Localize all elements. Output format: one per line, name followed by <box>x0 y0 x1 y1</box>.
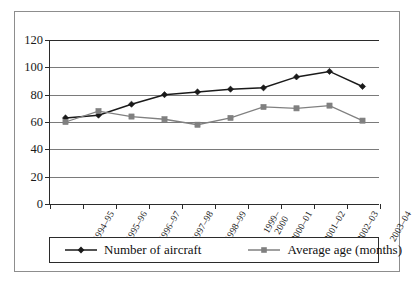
data-point-marker <box>228 115 233 120</box>
chart-plot-area: 020406080100120 1994–951995–961996–97199… <box>49 40 379 204</box>
data-point-marker <box>359 83 365 89</box>
series-line-1 <box>66 106 363 125</box>
y-axis-label-120: 120 <box>24 34 43 47</box>
data-point-marker <box>128 101 134 107</box>
chart-outer-frame: 020406080100120 1994–951995–961996–97199… <box>14 11 400 272</box>
data-point-marker <box>129 114 134 119</box>
data-point-marker <box>326 68 332 74</box>
y-axis-label-60: 60 <box>31 116 44 129</box>
chart-legend: Number of aircraftAverage age (months) <box>49 237 379 263</box>
y-axis-label-0: 0 <box>37 198 43 211</box>
data-point-marker <box>162 117 167 122</box>
legend-key-square-icon <box>247 244 281 256</box>
y-axis-label-100: 100 <box>24 61 43 74</box>
data-point-marker <box>195 122 200 127</box>
y-axis-label-80: 80 <box>31 88 44 101</box>
data-point-marker <box>63 119 68 124</box>
x-tick-10 <box>380 204 381 209</box>
data-point-marker <box>294 106 299 111</box>
data-point-marker <box>227 86 233 92</box>
y-axis-label-20: 20 <box>31 170 44 183</box>
legend-item-0[interactable]: Number of aircraft <box>64 242 201 258</box>
series-line-0 <box>66 71 363 117</box>
data-point-marker <box>327 103 332 108</box>
y-axis-label-40: 40 <box>31 143 44 156</box>
cut-off-title-fragment <box>0 0 416 9</box>
chart-series-layer <box>49 40 379 204</box>
data-point-marker <box>194 89 200 95</box>
data-point-marker <box>293 74 299 80</box>
legend-label-0: Number of aircraft <box>104 242 201 258</box>
data-point-marker <box>161 92 167 98</box>
x-axis-label-9: 2003–04 <box>388 210 413 244</box>
legend-item-1[interactable]: Average age (months) <box>247 242 402 258</box>
legend-key-diamond-icon <box>64 244 98 256</box>
data-point-marker <box>260 85 266 91</box>
data-point-marker <box>96 108 101 113</box>
legend-label-1: Average age (months) <box>287 242 402 258</box>
data-point-marker <box>360 118 365 123</box>
data-point-marker <box>261 104 266 109</box>
